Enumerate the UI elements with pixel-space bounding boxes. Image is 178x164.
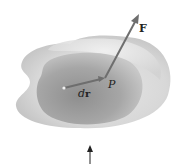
surface-work-diagram: F P dr — [0, 0, 178, 164]
force-label: F — [139, 22, 147, 35]
point-label: P — [107, 78, 116, 91]
displacement-label-d: d — [78, 87, 85, 100]
displacement-label-r: r — [85, 88, 91, 99]
up-arrow-icon — [87, 145, 93, 164]
displacement-label: dr — [78, 87, 91, 100]
